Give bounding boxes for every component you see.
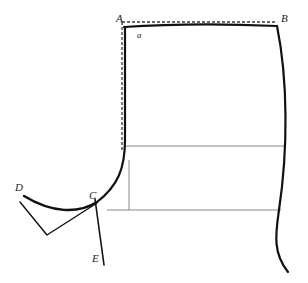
figure-container: A B a C D E xyxy=(0,0,308,283)
point-label-C: C xyxy=(89,190,96,201)
dashed-construction-group xyxy=(122,22,277,150)
curve-C-to-D xyxy=(24,196,97,210)
top-edge-A-to-B xyxy=(124,25,277,27)
outline-group xyxy=(24,25,288,272)
left-edge-A-down-to-C xyxy=(97,27,125,202)
grid-group xyxy=(107,27,285,262)
right-edge-B-down xyxy=(276,26,288,272)
point-label-E: E xyxy=(92,253,99,264)
diagram-canvas xyxy=(0,0,308,283)
point-label-A: A xyxy=(116,13,123,24)
angle-label-a: a xyxy=(137,31,142,40)
point-label-D: D xyxy=(15,182,23,193)
point-label-B: B xyxy=(281,13,288,24)
